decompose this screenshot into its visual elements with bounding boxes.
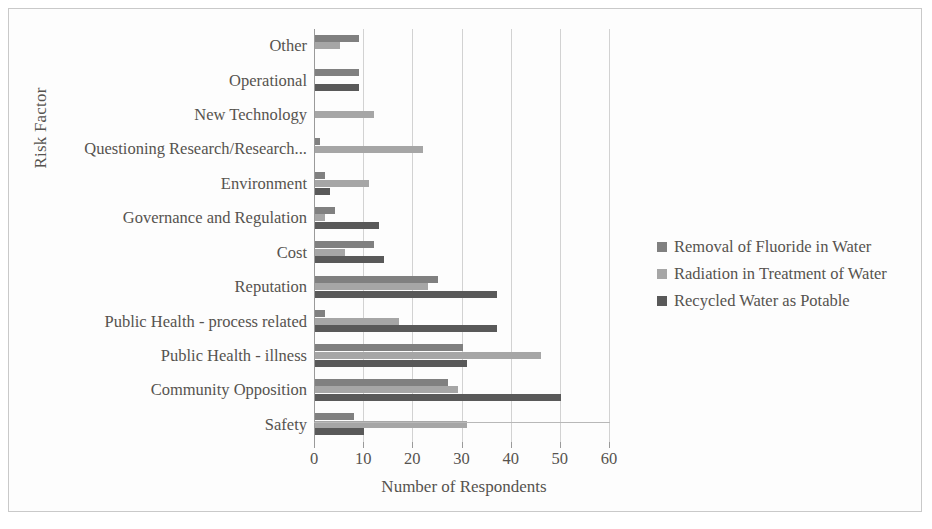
bar: [315, 35, 359, 42]
category-label: Other: [49, 37, 307, 55]
bar: [315, 84, 359, 91]
legend-label: Removal of Fluoride in Water: [674, 238, 871, 256]
category-label: Governance and Regulation: [49, 209, 307, 227]
bar: [315, 111, 374, 118]
x-tick-label: 20: [392, 449, 432, 469]
bar-group: [315, 201, 609, 235]
category-label: Cost: [49, 244, 307, 262]
bar: [315, 256, 384, 263]
bar: [315, 249, 345, 256]
axis-tick-mark: [363, 442, 364, 448]
category-axis-labels: OtherOperationalNew TechnologyQuestionin…: [49, 29, 307, 442]
bar: [315, 379, 448, 386]
category-label: Reputation: [49, 278, 307, 296]
legend-swatch-icon: [657, 242, 667, 252]
x-tick-label: 40: [491, 449, 531, 469]
bar-group: [315, 63, 609, 97]
category-label: Community Opposition: [49, 381, 307, 399]
bar: [315, 325, 497, 332]
bar: [315, 394, 561, 401]
bar-group: [315, 236, 609, 270]
axis-tick-mark: [560, 442, 561, 448]
bar: [315, 413, 354, 420]
bar: [315, 344, 463, 351]
legend-item: Recycled Water as Potable: [657, 287, 917, 314]
bar: [315, 214, 325, 221]
bar: [315, 428, 364, 435]
category-label: New Technology: [49, 106, 307, 124]
category-label: Safety: [49, 416, 307, 434]
bar-group: [315, 304, 609, 338]
axis-tick-mark: [511, 442, 512, 448]
bar: [315, 318, 399, 325]
bar-group: [315, 98, 609, 132]
legend-item: Removal of Fluoride in Water: [657, 233, 917, 260]
chart-frame: Risk Factor OtherOperationalNew Technolo…: [8, 8, 922, 512]
legend-swatch-icon: [657, 296, 667, 306]
category-axis-line: [314, 422, 610, 423]
x-tick-label: 10: [343, 449, 383, 469]
x-tick-label: 60: [589, 449, 629, 469]
bar: [315, 241, 374, 248]
chart-legend: Removal of Fluoride in WaterRadiation in…: [657, 233, 917, 314]
axis-tick-mark: [462, 442, 463, 448]
bar: [315, 360, 467, 367]
category-label: Questioning Research/Research...: [49, 140, 307, 158]
bar: [315, 283, 428, 290]
legend-swatch-icon: [657, 269, 667, 279]
bar: [315, 207, 335, 214]
category-label: Environment: [49, 175, 307, 193]
legend-item: Radiation in Treatment of Water: [657, 260, 917, 287]
bar: [315, 180, 369, 187]
bar: [315, 276, 438, 283]
bar-group: [315, 408, 609, 442]
bar: [315, 146, 423, 153]
x-tick-label: 0: [294, 449, 334, 469]
category-label: Operational: [49, 72, 307, 90]
category-label: Public Health - process related: [49, 313, 307, 331]
axis-tick-mark: [314, 442, 315, 448]
bar: [315, 352, 541, 359]
category-label: Public Health - illness: [49, 347, 307, 365]
bar: [315, 222, 379, 229]
x-tick-label: 30: [442, 449, 482, 469]
bar-group: [315, 29, 609, 63]
x-tick-label: 50: [540, 449, 580, 469]
x-axis-title: Number of Respondents: [314, 477, 614, 497]
bar: [315, 386, 458, 393]
bar-group: [315, 373, 609, 407]
gridline: [609, 29, 610, 442]
bar: [315, 291, 497, 298]
bar-group: [315, 167, 609, 201]
value-axis-tick-labels: 0102030405060: [314, 449, 634, 473]
axis-tick-mark: [609, 442, 610, 448]
plot-area: [314, 29, 609, 442]
bar-group: [315, 132, 609, 166]
bar: [315, 69, 359, 76]
bar: [315, 138, 320, 145]
bar: [315, 42, 340, 49]
bar: [315, 188, 330, 195]
bar: [315, 310, 325, 317]
legend-label: Radiation in Treatment of Water: [674, 265, 887, 283]
bar-group: [315, 339, 609, 373]
axis-tick-mark: [412, 442, 413, 448]
bar-group: [315, 270, 609, 304]
legend-label: Recycled Water as Potable: [674, 292, 850, 310]
bar: [315, 172, 325, 179]
